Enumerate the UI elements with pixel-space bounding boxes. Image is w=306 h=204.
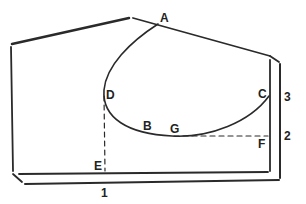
label-A: A (160, 11, 169, 25)
inner-frame (19, 60, 270, 174)
label-D: D (106, 88, 115, 102)
label-E: E (94, 159, 102, 173)
outer-frame (11, 18, 280, 184)
label-C: C (258, 87, 267, 101)
dimension-1: 1 (101, 186, 108, 200)
dashed-line-DE (104, 96, 105, 171)
label-G: G (170, 122, 179, 136)
diagram-canvas: A D B G C F E 3 2 1 (0, 0, 306, 204)
label-F: F (258, 137, 265, 151)
dimension-3: 3 (284, 90, 291, 104)
curve-ADBGC (104, 24, 269, 136)
dimension-2: 2 (284, 129, 291, 143)
label-B: B (143, 119, 152, 133)
